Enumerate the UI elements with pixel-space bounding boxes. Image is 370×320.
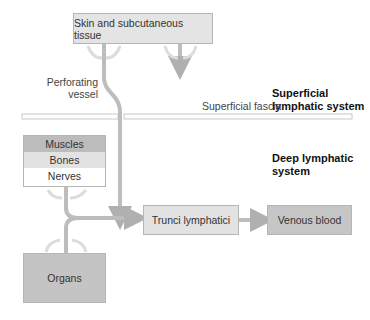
skin-node: Skin and subcutaneous tissue: [73, 13, 213, 44]
skin-label: Skin and subcutaneous tissue: [74, 17, 212, 41]
muscles-bones-nerves-node: Muscles Bones Nerves: [23, 135, 106, 187]
trunci-lymphatici-node: Trunci lymphatici: [143, 205, 239, 235]
bones-row: Bones: [24, 152, 105, 168]
organs-node: Organs: [23, 253, 106, 303]
superficial-fascia-label: Superficial fascia: [202, 100, 281, 112]
muscles-row: Muscles: [24, 136, 105, 152]
venous-blood-node: Venous blood: [267, 205, 352, 235]
superficial-system-label: Superficiallymphatic system: [272, 87, 364, 113]
deep-system-label: Deep lymphaticsystem: [272, 152, 353, 178]
perforating-vessel-label: Perforatingvessel: [30, 76, 98, 100]
nerves-row: Nerves: [24, 168, 105, 184]
